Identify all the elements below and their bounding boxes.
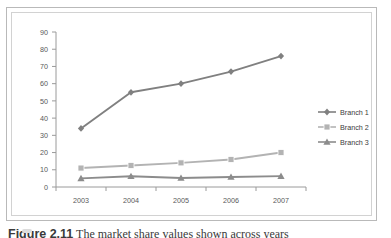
y-tick-label: 80 [40,45,48,54]
y-tick-labels: 0102030405060708090 [40,28,48,192]
x-tick-label: 2007 [273,196,289,205]
caption-prefix: Figure 2.11 [8,227,73,238]
legend-item-2[interactable]: Branch 2 [318,123,369,132]
caption-text: The market share values shown across yea… [76,227,289,238]
series-2 [78,150,284,172]
data-point-square [228,156,234,162]
x-tick-label: 2004 [123,196,139,205]
series-line [81,56,281,128]
data-point-square [278,150,284,156]
data-point-diamond [178,80,184,87]
y-tick-label: 60 [40,79,48,88]
y-tick-label: 40 [40,114,48,123]
x-tick-label: 2005 [173,196,189,205]
legend-label: Branch 1 [340,108,369,117]
y-tick-label: 10 [40,165,48,174]
y-tick-label: 50 [40,97,48,106]
data-point-square [78,165,84,171]
series-3 [77,173,284,182]
x-tick-marks [56,187,306,191]
y-tick-label: 70 [40,62,48,71]
y-tick-label: 90 [40,28,48,37]
figure-caption: Figure 2.11 The market share values show… [8,227,308,238]
data-point-square [178,160,184,166]
y-tick-marks [52,32,56,187]
data-point-diamond [278,53,284,60]
figure-container: 0102030405060708090 20032004200520062007… [0,0,391,238]
data-point-diamond [228,68,234,75]
data-point-square [128,162,134,168]
y-tick-label: 20 [40,148,48,157]
x-tick-label: 2003 [73,196,89,205]
legend-item-3[interactable]: Branch 3 [318,138,369,147]
data-point-diamond [324,109,330,116]
series-1 [78,53,284,132]
x-tick-label: 2006 [223,196,239,205]
chart-svg: 0102030405060708090 20032004200520062007… [11,12,372,216]
x-tick-labels: 20032004200520062007 [73,196,289,205]
data-point-square [324,124,330,130]
y-tick-label: 30 [40,131,48,140]
legend-item-1[interactable]: Branch 1 [318,108,369,117]
legend-label: Branch 3 [340,138,369,147]
legend-label: Branch 2 [340,123,369,132]
chart-legend: Branch 1Branch 2Branch 3 [318,108,369,147]
y-tick-label: 0 [44,183,48,192]
data-series-group [77,53,284,181]
line-chart: 0102030405060708090 20032004200520062007… [11,12,372,216]
page-speck [22,229,32,233]
